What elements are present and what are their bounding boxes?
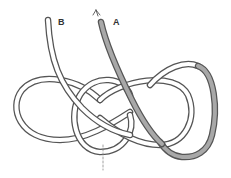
arrow-icon	[93, 10, 100, 16]
right-loop	[100, 80, 191, 145]
label-a: A	[113, 17, 120, 27]
label-b: B	[58, 17, 65, 27]
